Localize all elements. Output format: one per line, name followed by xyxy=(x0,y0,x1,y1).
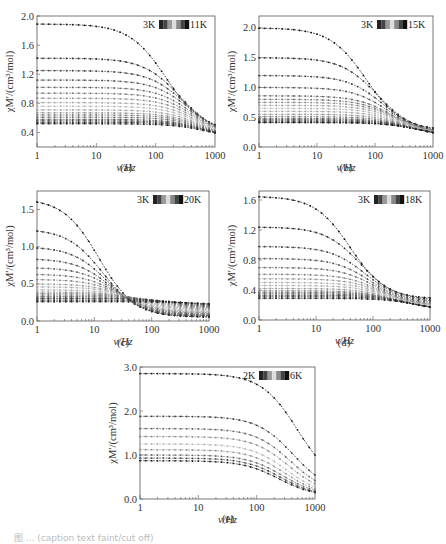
x-tick-label: 1 xyxy=(34,324,39,335)
series-line xyxy=(37,268,209,314)
x-tick-label: 100 xyxy=(365,323,381,334)
legend-start-label: 3K xyxy=(137,194,150,205)
x-tick-label: 10 xyxy=(193,502,204,513)
y-axis-label: χM′/(cm³/mol) xyxy=(4,225,16,288)
legend-color-bar xyxy=(175,195,179,204)
legend-color-bar xyxy=(399,20,403,29)
y-tick-label: 1.6 xyxy=(21,40,34,51)
legend-color-bar xyxy=(172,20,176,29)
panel-label-a: (a) xyxy=(106,161,146,173)
chart-b-svg: 11010010000.00.51.01.52.0ν/HzχM′/(cm³/mo… xyxy=(223,0,446,178)
legend-start-label: 2K xyxy=(243,370,256,381)
series-line xyxy=(140,374,315,455)
legend-color-bar xyxy=(176,20,180,29)
legend-color-bar xyxy=(377,20,381,29)
y-axis-label: χM′/(cm³/mol) xyxy=(226,50,238,113)
legend-color-bar xyxy=(168,20,172,29)
legend-color-bar xyxy=(394,20,398,29)
series-line xyxy=(37,231,209,316)
x-tick-label: 1 xyxy=(34,150,39,161)
chart-a-svg: 11010010000.40.81.21.62.0ν/HzχM′/(cm³/mo… xyxy=(0,0,223,178)
x-tick-label: 1 xyxy=(137,502,142,513)
y-tick-label: 1.5 xyxy=(21,204,34,215)
x-tick-label: 1000 xyxy=(423,150,444,161)
legend-start-label: 3K xyxy=(143,19,156,30)
y-tick-label: 0.5 xyxy=(21,278,34,289)
y-tick-label: 0.8 xyxy=(21,98,34,109)
legend-color-bar xyxy=(374,195,378,204)
legend-color-bar xyxy=(378,195,382,204)
panel-label-e: (e) xyxy=(208,512,248,524)
y-tick-label: 0.4 xyxy=(243,285,257,296)
y-axis-label: χM′/(cm³/mol) xyxy=(107,402,119,465)
chart-panel-e: 11010010000.01.02.03.0ν/HzχM′/(cm³/mol)2… xyxy=(100,350,340,528)
legend-color-bar xyxy=(272,371,276,380)
legend-color-bar xyxy=(403,20,407,29)
y-tick-label: 0.0 xyxy=(243,142,256,153)
panel-label-d: (d) xyxy=(324,336,364,348)
y-tick-label: 1.2 xyxy=(21,69,34,80)
legend-color-bar xyxy=(386,20,390,29)
legend-color-bar xyxy=(166,195,170,204)
legend-color-bar xyxy=(281,371,285,380)
legend: 3K11K xyxy=(143,19,208,30)
legend: 2K6K xyxy=(243,370,303,381)
legend-color-bar xyxy=(268,371,272,380)
y-tick-label: 1.0 xyxy=(124,450,137,461)
x-tick-label: 100 xyxy=(367,150,383,161)
y-tick-label: 0.5 xyxy=(243,112,256,123)
x-tick-label: 10 xyxy=(312,150,323,161)
chart-e-svg: 11010010000.01.02.03.0ν/HzχM′/(cm³/mol)2… xyxy=(100,350,340,528)
series-line xyxy=(140,461,315,493)
legend-color-bar xyxy=(181,20,185,29)
legend-color-bar xyxy=(276,371,280,380)
legend: 3K20K xyxy=(137,194,202,205)
x-tick-label: 100 xyxy=(249,502,265,513)
legend-end-label: 20K xyxy=(184,194,202,205)
panel-label-b: (b) xyxy=(326,161,366,173)
legend-color-bar xyxy=(185,20,189,29)
legend-color-bar xyxy=(285,371,289,380)
x-tick-label: 10 xyxy=(91,150,102,161)
y-tick-label: 2.0 xyxy=(124,406,137,417)
y-tick-label: 1.5 xyxy=(243,52,256,63)
chart-panel-d: 11010010000.00.40.81.21.6ν/HzχM′/(cm³/mo… xyxy=(223,175,446,353)
panel-label-c: (c) xyxy=(103,336,143,348)
legend-color-bar xyxy=(159,20,163,29)
chart-panel-a: 11010010000.40.81.21.62.0ν/HzχM′/(cm³/mo… xyxy=(0,0,223,178)
legend: 3K18K xyxy=(358,194,423,205)
legend-color-bar xyxy=(381,20,385,29)
y-tick-label: 0.4 xyxy=(21,127,35,138)
legend-color-bar xyxy=(387,195,391,204)
series-line xyxy=(37,248,209,316)
y-tick-label: 1.0 xyxy=(21,241,34,252)
legend-end-label: 6K xyxy=(290,370,303,381)
series-line xyxy=(140,450,315,489)
x-tick-label: 1000 xyxy=(305,502,326,513)
legend: 3K15K xyxy=(361,19,426,30)
legend-color-bar xyxy=(163,20,167,29)
legend-start-label: 3K xyxy=(358,194,371,205)
x-tick-label: 1 xyxy=(256,150,261,161)
chart-panel-c: 11010010000.00.51.01.5ν/HzχM′/(cm³/mol)3… xyxy=(0,175,223,353)
y-tick-label: 0.0 xyxy=(243,315,256,326)
chart-panel-b: 11010010000.00.51.01.52.0ν/HzχM′/(cm³/mo… xyxy=(223,0,446,178)
y-tick-label: 1.0 xyxy=(243,82,256,93)
y-tick-label: 1.2 xyxy=(243,225,256,236)
legend-color-bar xyxy=(383,195,387,204)
y-tick-label: 1.6 xyxy=(243,195,256,206)
legend-color-bar xyxy=(153,195,157,204)
x-tick-label: 10 xyxy=(89,324,100,335)
plot-frame xyxy=(140,367,315,499)
legend-end-label: 15K xyxy=(408,19,426,30)
legend-color-bar xyxy=(170,195,174,204)
legend-color-bar xyxy=(400,195,404,204)
legend-color-bar xyxy=(391,195,395,204)
series-line xyxy=(259,298,430,307)
legend-color-bar xyxy=(162,195,166,204)
legend-color-bar xyxy=(263,371,267,380)
x-tick-label: 10 xyxy=(311,323,322,334)
y-tick-label: 0.8 xyxy=(243,255,256,266)
y-tick-label: 0.0 xyxy=(21,316,34,327)
legend-end-label: 11K xyxy=(190,19,208,30)
